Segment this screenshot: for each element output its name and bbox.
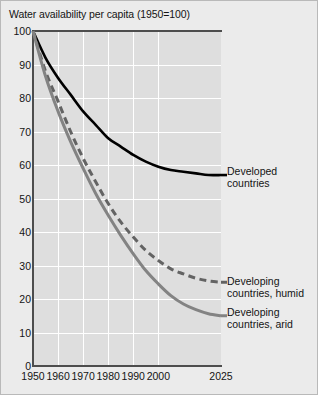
x-axis-tick-labels: 1950196019701980199020002025	[33, 370, 221, 388]
x-tick-label: 2000	[147, 370, 170, 382]
y-tick-label: 80	[3, 92, 31, 104]
x-tick-label: 2025	[209, 370, 232, 382]
y-tick-label: 10	[3, 327, 31, 339]
y-tick-label: 90	[3, 59, 31, 71]
series-label-humid-line2: countries, humid	[227, 288, 304, 300]
series-label-developed-countries: Developed countries	[227, 166, 277, 189]
x-tick-label: 1990	[122, 370, 145, 382]
chart-title: Water availability per capita (1950=100)	[9, 8, 190, 20]
y-tick-label: 50	[3, 193, 31, 205]
y-tick-label: 30	[3, 260, 31, 272]
x-tick-label: 1970	[71, 370, 94, 382]
series-label-arid-line1: Developing	[227, 307, 293, 319]
y-axis-tick-labels: 0102030405060708090100	[1, 31, 31, 366]
series-label-humid-line1: Developing	[227, 276, 304, 288]
series-line	[33, 31, 221, 175]
x-tick-label: 1960	[46, 370, 69, 382]
y-tick-label: 100	[3, 25, 31, 37]
x-tick-label: 1950	[21, 370, 44, 382]
series-label-developing-humid: Developing countries, humid	[227, 276, 304, 299]
y-tick-label: 70	[3, 126, 31, 138]
series-label-arid-line2: countries, arid	[227, 319, 293, 331]
series-curves	[33, 31, 221, 366]
series-label-developing-arid: Developing countries, arid	[227, 307, 293, 330]
chart-figure: Water availability per capita (1950=100)…	[0, 0, 318, 395]
x-tick-label: 1980	[97, 370, 120, 382]
y-tick-label: 20	[3, 293, 31, 305]
series-label-developed-line1: Developed	[227, 166, 277, 178]
y-tick-label: 40	[3, 226, 31, 238]
y-tick-label: 60	[3, 159, 31, 171]
series-label-developed-line2: countries	[227, 178, 277, 190]
